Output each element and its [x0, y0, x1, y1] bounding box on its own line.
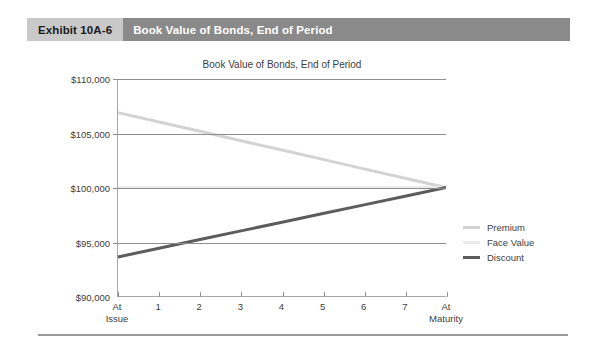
gridline [118, 79, 446, 80]
y-axis-tick-labels: $90,000$95,000$100,000$105,000$110,000 [0, 79, 110, 297]
y-axis-tick [113, 243, 118, 244]
legend-label: Face Value [487, 237, 534, 248]
x-axis-tick-label-line: 5 [320, 301, 325, 313]
x-axis-tick [200, 292, 201, 297]
x-axis-tick [283, 292, 284, 297]
chart-title: Book Value of Bonds, End of Period [117, 59, 447, 70]
x-axis-tick-label-line: 3 [238, 301, 243, 313]
x-axis-tick-label: AtMaturity [429, 301, 463, 324]
series-line-discount [118, 188, 446, 257]
y-axis-tick [113, 188, 118, 189]
plot-area [117, 79, 446, 297]
footer-divider [38, 334, 568, 336]
x-axis-tick-label-line: 4 [279, 301, 284, 313]
x-axis-tick-label: 2 [197, 301, 202, 313]
exhibit-title-bar: Book Value of Bonds, End of Period [123, 18, 570, 41]
x-axis-tick [159, 292, 160, 297]
x-axis-tick-label: 1 [155, 301, 160, 313]
x-axis-tick-label: 3 [238, 301, 243, 313]
gridline [118, 134, 446, 135]
gridline [118, 188, 446, 189]
series-line-premium [118, 113, 446, 188]
x-axis-tick [324, 292, 325, 297]
legend-item-face-value: Face Value [463, 235, 583, 250]
x-axis-tick [241, 292, 242, 297]
x-axis-tick [365, 292, 366, 297]
x-axis-tick-label-line: 1 [155, 301, 160, 313]
x-axis-tick-label-line: Issue [106, 313, 129, 325]
y-axis-tick [113, 134, 118, 135]
x-axis-tick [447, 292, 448, 297]
legend-swatch [463, 226, 480, 229]
y-axis-tick-label: $100,000 [70, 183, 110, 194]
y-axis-tick-label: $95,000 [76, 237, 110, 248]
chart-container: Book Value of Bonds, End of Period $90,0… [0, 48, 601, 318]
x-axis-tick [406, 292, 407, 297]
exhibit-number-badge: Exhibit 10A-6 [27, 18, 123, 41]
legend-item-discount: Discount [463, 250, 583, 265]
legend-label: Discount [487, 252, 524, 263]
y-axis-tick-label: $105,000 [70, 128, 110, 139]
x-axis-tick-label: 7 [402, 301, 407, 313]
legend-swatch [463, 256, 480, 259]
legend-item-premium: Premium [463, 220, 583, 235]
x-axis-tick-label-line: 7 [402, 301, 407, 313]
x-axis-tick-label-line: At [106, 301, 129, 313]
gridline [118, 243, 446, 244]
legend-swatch [463, 241, 480, 244]
x-axis-tick-label: AtIssue [106, 301, 129, 324]
y-axis-tick-label: $110,000 [71, 74, 110, 85]
x-axis-tick-label-line: Maturity [429, 313, 463, 325]
x-axis-tick-label: 6 [361, 301, 366, 313]
x-axis-tick-label: 5 [320, 301, 325, 313]
chart-legend: PremiumFace ValueDiscount [463, 220, 583, 265]
x-axis-tick-label-line: 6 [361, 301, 366, 313]
y-axis-tick [113, 79, 118, 80]
plot-inner [118, 79, 446, 296]
x-axis-tick-label-line: At [429, 301, 463, 313]
exhibit-header: Exhibit 10A-6 Book Value of Bonds, End o… [27, 18, 570, 41]
x-axis-tick-label: 4 [279, 301, 284, 313]
legend-label: Premium [487, 222, 525, 233]
x-axis-tick [118, 292, 119, 297]
x-axis-tick-label-line: 2 [197, 301, 202, 313]
